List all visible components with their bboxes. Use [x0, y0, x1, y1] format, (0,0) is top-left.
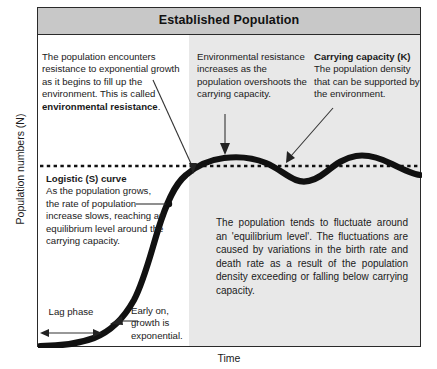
leader-overshoot	[220, 114, 230, 155]
note-overshoot: Environmental resistance increases as th…	[197, 51, 309, 101]
note-lag-label: Lag phase	[49, 306, 94, 317]
y-axis-label: Population numbers (N)	[14, 79, 26, 259]
note-resistance-body: The population encounters resistance to …	[42, 51, 180, 99]
note-early-body: Early on, growth is exponential.	[131, 305, 183, 341]
note-resistance-period: .	[158, 101, 161, 112]
plot-frame: Established Population	[37, 7, 421, 347]
leader-carrying-capacity	[286, 108, 333, 163]
note-lag-phase: Lag phase	[38, 306, 104, 318]
note-logistic-curve: Logistic (S) curve As the population gro…	[46, 173, 166, 247]
note-environmental-resistance: The population encounters resistance to …	[42, 51, 188, 113]
note-resistance-bold: environmental resistance	[42, 101, 158, 112]
note-carrying-capacity: Carrying capacity (K) The population den…	[314, 51, 420, 101]
note-fluctuation: The population tends to fluctuate around…	[216, 216, 408, 298]
note-carrying-bold: Carrying capacity (K)	[314, 51, 411, 62]
note-overshoot-body: Environmental resistance increases as th…	[197, 51, 307, 99]
note-fluctuate-body: The population tends to fluctuate around…	[216, 217, 408, 296]
note-logistic-body: As the population grows, the rate of pop…	[46, 185, 164, 246]
population-growth-figure: Established Population	[0, 0, 437, 369]
note-logistic-bold: Logistic (S) curve	[46, 173, 127, 184]
note-carrying-body: The population density that can be suppo…	[314, 63, 420, 99]
note-early-exponential: Early on, growth is exponential.	[131, 305, 193, 342]
x-axis-label: Time	[37, 352, 421, 364]
